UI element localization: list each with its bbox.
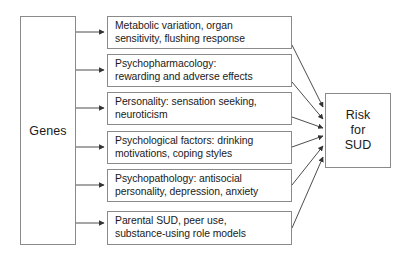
genes-to-factor-connectors — [76, 32, 104, 223]
node-psychological-factors[interactable]: Psychological factors: drinking motivati… — [107, 131, 292, 164]
node-personality-label: Personality: sensation seeking, neurotic… — [115, 96, 257, 121]
node-psychological-factors-line2: motivations, coping styles — [115, 148, 232, 159]
node-psychological-factors-label: Psychological factors: drinking motivati… — [115, 135, 253, 160]
factor-to-risk-connectors — [292, 45, 323, 228]
node-risk-for-sud-line1: Risk — [346, 108, 371, 122]
connector-psychological-factors-to-risk — [292, 136, 323, 147]
diagram-canvas: Genes Metabolic variation, organ sensiti… — [0, 0, 408, 270]
node-personality-line1: Personality: sensation seeking, — [115, 96, 257, 107]
node-psychopharmacology[interactable]: Psychopharmacology: rewarding and advers… — [107, 54, 292, 87]
node-parental-sud[interactable]: Parental SUD, peer use, substance-using … — [107, 211, 292, 245]
node-genes-label: Genes — [29, 124, 66, 138]
node-parental-sud-label: Parental SUD, peer use, substance-using … — [115, 215, 246, 240]
node-risk-for-sud-line2: for — [351, 123, 366, 137]
connector-metabolic-to-risk — [292, 45, 323, 107]
connector-psychopharmacology-to-risk — [292, 82, 323, 119]
connector-personality-to-risk — [292, 117, 323, 128]
node-metabolic-variation-line1: Metabolic variation, organ — [115, 20, 233, 31]
node-psychological-factors-line1: Psychological factors: drinking — [115, 135, 253, 146]
node-risk-for-sud-label: Risk for SUD — [345, 108, 372, 153]
node-parental-sud-line1: Parental SUD, peer use, — [115, 215, 226, 226]
node-metabolic-variation-line2: sensitivity, flushing response — [115, 33, 245, 44]
node-metabolic-variation[interactable]: Metabolic variation, organ sensitivity, … — [107, 16, 292, 49]
node-psychopharmacology-label: Psychopharmacology: rewarding and advers… — [115, 58, 253, 83]
node-metabolic-variation-label: Metabolic variation, organ sensitivity, … — [115, 20, 245, 45]
node-psychopathology[interactable]: Psychopathology: antisocial personality,… — [107, 169, 292, 202]
node-psychopathology-label: Psychopathology: antisocial personality,… — [115, 173, 258, 198]
node-genes[interactable]: Genes — [20, 16, 76, 245]
node-personality[interactable]: Personality: sensation seeking, neurotic… — [107, 92, 292, 125]
node-psychopathology-line2: personality, depression, anxiety — [115, 186, 258, 197]
node-psychopathology-line1: Psychopathology: antisocial — [115, 173, 242, 184]
node-psychopharmacology-line2: rewarding and adverse effects — [115, 71, 253, 82]
node-risk-for-sud[interactable]: Risk for SUD — [325, 93, 391, 168]
node-risk-for-sud-line3: SUD — [345, 138, 372, 152]
node-personality-line2: neuroticism — [115, 109, 168, 120]
connector-parental-sud-to-risk — [292, 157, 323, 228]
node-parental-sud-line2: substance-using role models — [115, 228, 246, 239]
node-psychopharmacology-line1: Psychopharmacology: — [115, 58, 216, 69]
connector-psychopathology-to-risk — [292, 146, 323, 185]
